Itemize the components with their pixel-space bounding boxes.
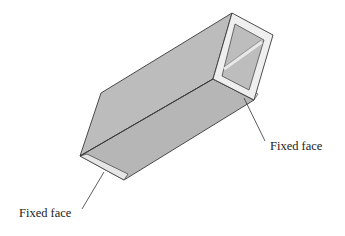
fixed-face-label-left: Fixed face	[19, 206, 71, 221]
fixed-face-label-right: Fixed face	[270, 139, 322, 154]
leader-line-right	[244, 98, 265, 141]
leader-line-left	[82, 172, 104, 209]
beam-diagram	[0, 0, 345, 236]
